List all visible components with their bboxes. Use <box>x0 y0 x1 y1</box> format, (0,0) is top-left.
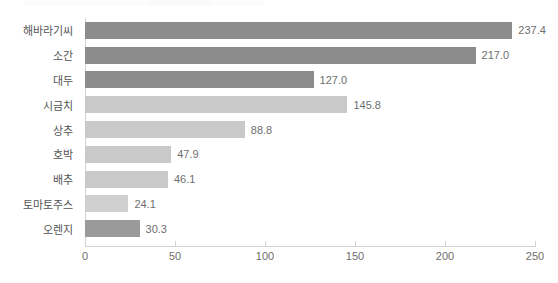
x-tick-mark <box>445 241 446 246</box>
bar-value-label: 46.1 <box>168 173 195 185</box>
plot-area: 237.4217.0127.0145.888.847.946.124.130.3 <box>85 18 535 241</box>
category-label-상추: 상추 <box>53 122 73 138</box>
bar-row: 88.8 <box>85 121 535 138</box>
x-tick-label: 200 <box>436 250 454 262</box>
category-label-소간: 소간 <box>53 47 73 63</box>
bar-row: 30.3 <box>85 220 535 237</box>
bar-value-label: 145.8 <box>347 99 381 111</box>
bar-토마토주스[interactable] <box>85 195 128 212</box>
bar-value-label: 237.4 <box>512 24 546 36</box>
bar-row: 217.0 <box>85 47 535 64</box>
x-tick-mark <box>85 241 86 246</box>
category-axis: 해바라기씨소간대두시금치상추호박배추토마토주스오렌지 <box>0 18 79 241</box>
category-label-오렌지: 오렌지 <box>43 221 73 237</box>
chart-title-remnant-secondary <box>150 0 210 5</box>
category-label-대두: 대두 <box>53 72 73 88</box>
bar-row: 46.1 <box>85 171 535 188</box>
category-label-호박: 호박 <box>53 146 73 162</box>
x-tick-mark <box>535 241 536 246</box>
bar-row: 24.1 <box>85 195 535 212</box>
bar-호박[interactable] <box>85 146 171 163</box>
bar-value-label: 30.3 <box>140 223 167 235</box>
bar-해바라기씨[interactable] <box>85 22 512 39</box>
bar-오렌지[interactable] <box>85 220 140 237</box>
bar-row: 47.9 <box>85 146 535 163</box>
chart-title-remnant <box>24 0 264 6</box>
bar-row: 145.8 <box>85 96 535 113</box>
bar-value-label: 47.9 <box>171 148 198 160</box>
x-tick-mark <box>265 241 266 246</box>
bar-value-label: 88.8 <box>245 124 272 136</box>
bar-시금치[interactable] <box>85 96 347 113</box>
category-label-시금치: 시금치 <box>43 97 73 113</box>
bar-배추[interactable] <box>85 171 168 188</box>
bar-value-label: 127.0 <box>314 74 348 86</box>
category-label-토마토주스: 토마토주스 <box>23 196 73 212</box>
x-tick-label: 250 <box>526 250 544 262</box>
x-axis-line <box>85 246 536 247</box>
bar-chart: 해바라기씨소간대두시금치상추호박배추토마토주스오렌지 237.4217.0127… <box>0 0 558 283</box>
bar-value-label: 24.1 <box>128 198 155 210</box>
bar-row: 237.4 <box>85 22 535 39</box>
x-tick-mark <box>175 241 176 246</box>
category-label-배추: 배추 <box>53 171 73 187</box>
bar-상추[interactable] <box>85 121 245 138</box>
x-tick-label: 150 <box>346 250 364 262</box>
bar-value-label: 217.0 <box>476 49 510 61</box>
x-tick-label: 100 <box>256 250 274 262</box>
bar-소간[interactable] <box>85 47 476 64</box>
bar-대두[interactable] <box>85 71 314 88</box>
x-tick-mark <box>355 241 356 246</box>
category-label-해바라기씨: 해바라기씨 <box>23 22 73 38</box>
x-tick-label: 0 <box>82 250 88 262</box>
x-tick-label: 50 <box>169 250 181 262</box>
bar-row: 127.0 <box>85 71 535 88</box>
